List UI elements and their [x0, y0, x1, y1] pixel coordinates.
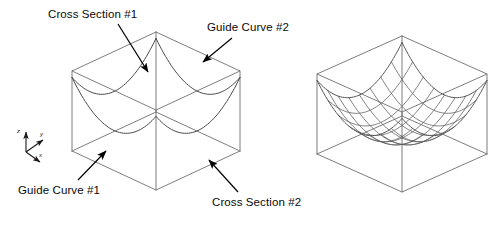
- axis-label-x: x: [39, 152, 42, 158]
- label-cross-section-2: Cross Section #2: [212, 196, 301, 208]
- curve-guide-curve-2: [72, 38, 156, 94]
- mesh-isocurve-v: [317, 80, 402, 135]
- label-cross-section-1: Cross Section #1: [48, 8, 137, 20]
- cross-section-2-arrow: [209, 160, 238, 192]
- axis-arrow-x: [26, 152, 40, 162]
- mesh-isocurve-u: [317, 42, 402, 97]
- curve-cross-section-1: [72, 77, 156, 133]
- axis-arrow-y: [26, 140, 43, 152]
- annotation-arrows: [78, 24, 238, 192]
- axis-label-y: y: [40, 131, 43, 137]
- curve-cross-section-2: [156, 38, 240, 94]
- mesh-isocurve-u: [402, 80, 487, 135]
- axis-label-z: z: [17, 128, 20, 134]
- right-panel-mesh-surface: [317, 36, 487, 192]
- label-guide-curve-1: Guide Curve #1: [18, 184, 100, 196]
- mesh-isocurve-v: [402, 42, 487, 97]
- curve-guide-curve-1: [156, 77, 240, 133]
- figure-surface-construction: Cross Section #1 Guide Curve #2 Guide Cu…: [0, 0, 498, 230]
- guide-curve-2-arrow: [203, 38, 232, 62]
- label-guide-curve-2: Guide Curve #2: [207, 21, 289, 33]
